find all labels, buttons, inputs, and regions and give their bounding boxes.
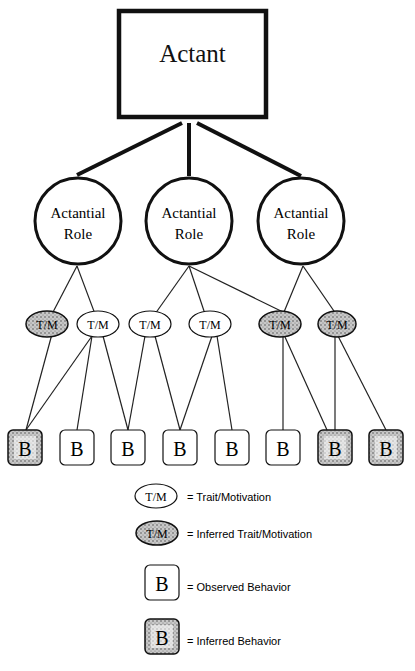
behavior-observed-3: B bbox=[111, 430, 145, 465]
svg-text:B: B bbox=[121, 438, 134, 460]
svg-text:Role: Role bbox=[175, 226, 204, 242]
svg-text:Actantial: Actantial bbox=[274, 205, 329, 221]
actantial-role-2: Actantial Role bbox=[146, 178, 232, 264]
behavior-inferred-1: B bbox=[8, 430, 42, 465]
svg-text:T/M: T/M bbox=[146, 527, 168, 541]
legend-observed-behavior: B = Observed Behavior bbox=[145, 565, 291, 600]
root-edges bbox=[77, 123, 301, 176]
behavior-inferred-7: B bbox=[318, 430, 352, 465]
svg-text:T/M: T/M bbox=[326, 318, 348, 332]
svg-text:T/M: T/M bbox=[269, 318, 291, 332]
svg-text:T/M: T/M bbox=[36, 318, 58, 332]
behavior-observed-5: B bbox=[215, 430, 249, 465]
actant-node: Actant bbox=[119, 11, 266, 117]
svg-text:B: B bbox=[328, 438, 341, 460]
behavior-observed-4: B bbox=[163, 430, 197, 465]
svg-text:T/M: T/M bbox=[199, 318, 221, 332]
svg-text:T/M: T/M bbox=[145, 490, 167, 504]
behavior-nodes: B B B B B B B B bbox=[8, 430, 403, 465]
svg-text:B: B bbox=[70, 438, 83, 460]
svg-text:B: B bbox=[155, 573, 168, 595]
actantial-role-1: Actantial Role bbox=[35, 178, 121, 264]
svg-text:B: B bbox=[155, 627, 168, 649]
svg-text:B: B bbox=[379, 438, 392, 460]
legend-inferred-behavior: B = Inferred Behavior bbox=[145, 619, 281, 654]
role-trait-edges bbox=[52, 266, 336, 314]
trait-behavior-edges bbox=[26, 334, 386, 430]
trait-nodes: T/M T/M T/M T/M T/M T/M bbox=[26, 311, 356, 337]
trait-inferred-1: T/M bbox=[26, 311, 68, 337]
actant-label: Actant bbox=[159, 40, 226, 67]
svg-text:B: B bbox=[173, 438, 186, 460]
legend-inferred-trait-motivation: T/M = Inferred Trait/Motivation bbox=[136, 521, 312, 545]
actantial-role-3: Actantial Role bbox=[258, 178, 344, 264]
legend: T/M = Trait/Motivation T/M = Inferred Tr… bbox=[135, 484, 312, 654]
svg-text:B: B bbox=[225, 438, 238, 460]
behavior-observed-2: B bbox=[60, 430, 94, 465]
role-nodes: Actantial Role Actantial Role Actantial … bbox=[35, 178, 344, 264]
svg-text:= Inferred Trait/Motivation: = Inferred Trait/Motivation bbox=[187, 528, 312, 540]
trait-observed-2: T/M bbox=[77, 311, 119, 337]
svg-text:Actantial: Actantial bbox=[51, 205, 106, 221]
svg-text:Role: Role bbox=[64, 226, 93, 242]
svg-text:T/M: T/M bbox=[139, 318, 161, 332]
svg-text:= Trait/Motivation: = Trait/Motivation bbox=[187, 491, 271, 503]
actant-diagram: Actant Actantial Role Actantial Role Act… bbox=[0, 0, 415, 671]
svg-text:= Inferred Behavior: = Inferred Behavior bbox=[187, 635, 281, 647]
trait-inferred-5: T/M bbox=[259, 311, 301, 337]
behavior-inferred-8: B bbox=[369, 430, 403, 465]
svg-text:= Observed Behavior: = Observed Behavior bbox=[187, 581, 291, 593]
trait-observed-3: T/M bbox=[129, 311, 171, 337]
trait-inferred-6: T/M bbox=[318, 311, 356, 337]
svg-text:B: B bbox=[276, 438, 289, 460]
trait-observed-4: T/M bbox=[189, 311, 231, 337]
legend-trait-motivation: T/M = Trait/Motivation bbox=[135, 484, 271, 508]
svg-text:Actantial: Actantial bbox=[162, 205, 217, 221]
svg-text:Role: Role bbox=[287, 226, 316, 242]
behavior-observed-6: B bbox=[266, 430, 300, 465]
svg-text:T/M: T/M bbox=[87, 318, 109, 332]
svg-text:B: B bbox=[18, 438, 31, 460]
